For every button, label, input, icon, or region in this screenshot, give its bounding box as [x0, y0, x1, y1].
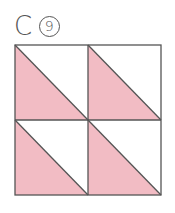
quilt-block-diagram — [0, 0, 175, 213]
